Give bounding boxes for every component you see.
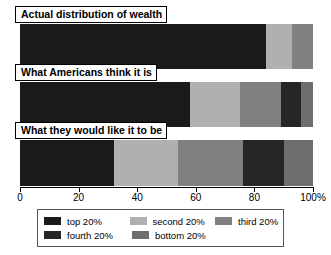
- stacked-bar: [20, 82, 313, 127]
- legend-swatch-icon: [44, 231, 61, 239]
- legend-label: third 20%: [238, 216, 278, 227]
- plot-area: Actual distribution of wealth What Ameri…: [20, 10, 313, 187]
- legend-label: fourth 20%: [67, 230, 113, 241]
- x-tick-label: 80: [249, 192, 260, 203]
- x-axis-line: [20, 187, 314, 188]
- wealth-distribution-chart: Actual distribution of wealth What Ameri…: [0, 0, 331, 255]
- bar-segment-bottom-20-: [301, 82, 313, 127]
- bar-segment-top-20-: [20, 82, 190, 127]
- legend-label: second 20%: [153, 216, 205, 227]
- bar-segment-third-20-: [240, 82, 281, 127]
- legend-label: bottom 20%: [155, 230, 206, 241]
- bar-segment-second-20-: [266, 24, 292, 69]
- bar-segment-second-20-: [190, 82, 240, 127]
- bar-segment-third-20-: [178, 140, 242, 186]
- bar-label-would-like: What they would like it to be: [15, 122, 167, 139]
- x-tick-label: 40: [132, 192, 143, 203]
- x-tick-label: 100%: [300, 192, 326, 203]
- stacked-bar: [20, 140, 313, 186]
- bar-segment-top-20-: [20, 24, 266, 69]
- chart-legend: top 20%second 20%third 20%fourth 20%bott…: [37, 209, 284, 247]
- legend-row: fourth 20%bottom 20%: [44, 228, 283, 242]
- bar-group-actual: [20, 24, 313, 69]
- bar-group-think: [20, 82, 313, 127]
- legend-item-second-20-: second 20%: [130, 214, 216, 228]
- bar-group-would-like: [20, 140, 313, 186]
- legend-item-third-20-: third 20%: [215, 214, 283, 228]
- bar-segment-bottom-20-: [284, 140, 313, 186]
- bar-segment-fourth-20-: [281, 82, 302, 127]
- x-tick-label: 0: [17, 192, 23, 203]
- legend-item-top-20-: top 20%: [44, 214, 130, 228]
- legend-swatch-icon: [132, 231, 149, 239]
- x-tick-label: 60: [190, 192, 201, 203]
- bar-segment-second-20-: [114, 140, 178, 186]
- legend-row: top 20%second 20%third 20%: [44, 214, 283, 228]
- legend-swatch-icon: [215, 217, 232, 225]
- bar-label-actual: Actual distribution of wealth: [15, 6, 167, 23]
- legend-item-fourth-20-: fourth 20%: [44, 228, 132, 242]
- bar-segment-third-20-: [292, 24, 313, 69]
- bar-segment-top-20-: [20, 140, 114, 186]
- bar-segment-fourth-20-: [243, 140, 284, 186]
- stacked-bar: [20, 24, 313, 69]
- legend-swatch-icon: [130, 217, 147, 225]
- legend-item-bottom-20-: bottom 20%: [132, 228, 220, 242]
- legend-swatch-icon: [44, 217, 61, 225]
- x-tick-label: 20: [73, 192, 84, 203]
- bar-label-think: What Americans think it is: [15, 64, 157, 81]
- legend-label: top 20%: [67, 216, 102, 227]
